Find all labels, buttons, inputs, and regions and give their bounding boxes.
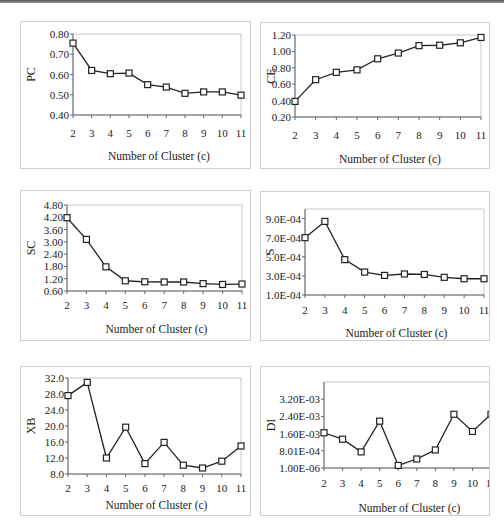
y-tick-label: 4.80 <box>44 199 64 211</box>
data-point-xb-8 <box>180 462 186 468</box>
x-tick-label: 3 <box>84 299 90 311</box>
x-tick-label: 7 <box>396 129 402 141</box>
data-point-sc-7 <box>161 279 167 285</box>
data-point-xb-6 <box>142 461 148 467</box>
y-tick-label: 3.0E-04 <box>266 270 302 282</box>
chart-pc-svg: 0.400.500.600.700.80234567891011Number o… <box>21 22 250 168</box>
y-tick-label: 0.20 <box>272 111 292 123</box>
x-tick-label: 10 <box>217 299 229 311</box>
x-tick-label: 4 <box>334 129 340 141</box>
y-axis-title: CE <box>264 68 278 83</box>
x-tick-label: 2 <box>292 129 298 141</box>
y-tick-label: 1.00E-06 <box>279 462 320 474</box>
y-tick-label: 0.40 <box>272 95 292 107</box>
x-tick-label: 10 <box>459 304 471 316</box>
y-tick-label: 32.0 <box>45 372 65 384</box>
data-point-s-8 <box>421 271 427 277</box>
y-tick-label: 9.0E-04 <box>266 213 302 225</box>
y-axis-title: S <box>263 249 277 256</box>
series-line-di <box>324 414 489 465</box>
x-tick-label: 11 <box>237 299 248 311</box>
x-tick-label: 8 <box>416 129 422 141</box>
y-tick-label: 3.60 <box>44 224 64 236</box>
x-tick-label: 6 <box>382 304 388 316</box>
y-tick-label: 3.20E-03 <box>279 393 320 405</box>
data-point-sc-4 <box>103 264 109 270</box>
y-axis-title: DI <box>264 419 278 432</box>
x-tick-label: 6 <box>145 127 151 139</box>
y-tick-label: 0.60 <box>50 69 70 81</box>
x-tick-label: 2 <box>70 127 76 139</box>
x-tick-label: 3 <box>84 482 90 494</box>
y-tick-label: 3.00 <box>44 236 64 248</box>
x-tick-label: 7 <box>161 482 167 494</box>
x-tick-label: 10 <box>217 127 229 139</box>
x-tick-label: 8 <box>181 482 187 494</box>
chart-ce-panel: 0.200.400.600.801.001.20234567891011Numb… <box>260 22 490 169</box>
x-tick-label: 5 <box>354 129 360 141</box>
x-tick-label: 8 <box>422 304 428 316</box>
y-tick-label: 7.0E-04 <box>266 232 302 244</box>
y-tick-label: 1.80 <box>44 260 64 272</box>
y-axis-title: PC <box>24 67 38 82</box>
data-point-xb-11 <box>238 443 244 449</box>
x-tick-label: 5 <box>362 304 368 316</box>
data-point-sc-10 <box>220 281 226 287</box>
x-axis-title: Number of Cluster (c) <box>106 499 208 512</box>
data-point-sc-8 <box>181 279 187 285</box>
y-tick-label: 0.60 <box>44 285 64 297</box>
y-tick-label: 0.80 <box>50 28 70 40</box>
chart-di-svg: 1.00E-068.01E-041.60E-032.40E-033.20E-03… <box>261 367 489 515</box>
x-tick-label: 6 <box>142 482 148 494</box>
chart-sc-svg: 0.601.201.802.403.003.604.204.8023456789… <box>21 191 250 340</box>
chart-pc-panel: 0.400.500.600.700.80234567891011Number o… <box>20 21 251 169</box>
data-point-sc-9 <box>200 281 206 287</box>
y-tick-label: 12.0 <box>45 452 65 464</box>
data-point-ce-3 <box>313 77 319 83</box>
x-tick-label: 3 <box>340 477 346 489</box>
data-point-s-11 <box>481 276 487 282</box>
data-point-pc-3 <box>89 67 95 73</box>
x-tick-label: 9 <box>437 129 443 141</box>
page-top-rule <box>0 0 504 3</box>
x-tick-label: 8 <box>181 299 187 311</box>
data-point-pc-11 <box>238 92 244 98</box>
data-point-s-6 <box>382 272 388 278</box>
data-point-di-5 <box>377 418 383 424</box>
x-tick-label: 9 <box>451 477 457 489</box>
y-tick-label: 1.20 <box>272 29 292 41</box>
x-tick-label: 6 <box>375 129 381 141</box>
data-point-pc-4 <box>107 71 113 77</box>
data-point-ce-10 <box>457 40 463 46</box>
x-tick-label: 4 <box>108 127 114 139</box>
x-axis-title: Number of Cluster (c) <box>106 323 208 336</box>
x-tick-label: 9 <box>441 304 447 316</box>
x-tick-label: 4 <box>104 482 110 494</box>
y-tick-label: 0.70 <box>50 48 70 60</box>
data-point-s-10 <box>461 276 467 282</box>
x-tick-label: 8 <box>182 127 188 139</box>
series-line-xb <box>68 382 241 468</box>
y-tick-label: 2.40 <box>44 248 64 260</box>
y-tick-label: 24.0 <box>45 404 65 416</box>
data-point-pc-9 <box>201 89 207 95</box>
y-axis-title: SC <box>24 241 38 256</box>
chart-xb-svg: 8.012.016.020.024.028.032.0234567891011N… <box>21 367 250 515</box>
y-tick-label: 1.60E-03 <box>279 428 320 440</box>
chart-xb-panel: 8.012.016.020.024.028.032.0234567891011N… <box>20 366 251 516</box>
x-tick-label: 2 <box>302 304 308 316</box>
x-tick-label: 11 <box>476 129 487 141</box>
series-line-s <box>305 221 484 278</box>
data-point-pc-2 <box>70 40 76 46</box>
data-point-ce-6 <box>375 56 381 62</box>
y-tick-label: 1.20 <box>44 273 64 285</box>
data-point-sc-3 <box>83 236 89 242</box>
series-line-sc <box>67 218 242 285</box>
x-axis-title: Number of Cluster (c) <box>108 150 210 163</box>
plot-area <box>73 34 241 115</box>
x-tick-label: 11 <box>236 482 247 494</box>
x-tick-label: 8 <box>433 477 439 489</box>
x-tick-label: 10 <box>467 477 479 489</box>
data-point-s-5 <box>362 269 368 275</box>
x-tick-label: 3 <box>322 304 328 316</box>
